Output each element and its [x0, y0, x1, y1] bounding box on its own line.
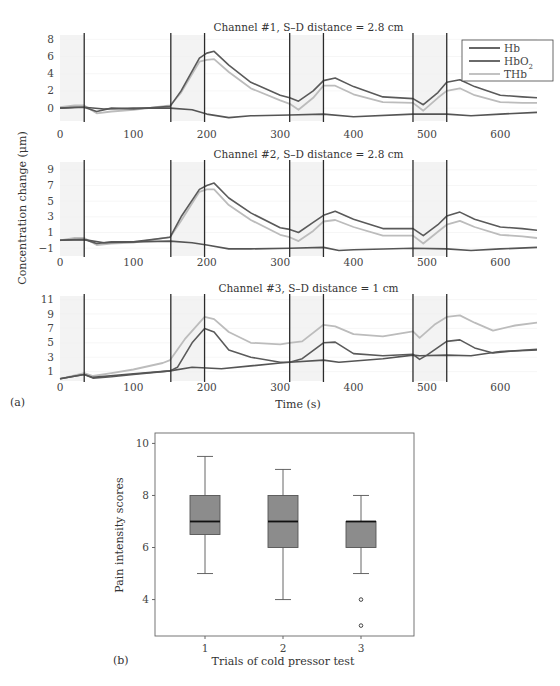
channel-title: Channel #2, S–D distance = 2.8 cm — [214, 148, 404, 160]
panel-b-label: (b) — [113, 654, 129, 667]
y-tick-label: 6 — [142, 541, 149, 553]
x-tick-label: 3 — [358, 642, 365, 654]
shaded-region — [413, 296, 447, 381]
y-axis-label: Pain intensity scores — [113, 477, 126, 593]
x-tick-label: 200 — [197, 128, 217, 140]
y-tick-label: 4 — [142, 593, 149, 605]
x-tick-label: 500 — [417, 381, 437, 393]
x-tick-label: 100 — [123, 128, 143, 140]
panel-a-label: (a) — [10, 396, 25, 409]
legend-entry: THb — [504, 68, 527, 80]
shaded-region — [290, 162, 324, 256]
figure: Channel #1, S–D distance = 2.8 cm0246801… — [0, 0, 560, 686]
legend-entry: Hb — [504, 42, 520, 54]
panel-b-box-plot: 46810123Pain intensity scoresTrials of c… — [113, 433, 414, 668]
y-tick-label: 8 — [47, 33, 54, 45]
shaded-region — [60, 296, 84, 381]
y-tick-label: 3 — [47, 210, 54, 222]
y-tick-label: 6 — [47, 50, 54, 62]
x-tick-label: 600 — [490, 128, 510, 140]
y-tick-label: 2 — [47, 84, 54, 96]
legend: HbHbO2THb — [462, 40, 553, 81]
x-tick-label: 0 — [57, 256, 64, 268]
shaded-region — [413, 162, 447, 256]
channel-1-plot: Channel #1, S–D distance = 2.8 cm0246801… — [47, 21, 553, 140]
x-tick-label: 300 — [270, 256, 290, 268]
y-tick-label: 9 — [47, 163, 54, 175]
x-tick-label: 100 — [123, 381, 143, 393]
outlier-point — [359, 598, 363, 602]
panel-a-line-charts: Channel #1, S–D distance = 2.8 cm0246801… — [16, 21, 553, 411]
y-tick-label: 7 — [47, 322, 54, 334]
y-tick-label: 10 — [136, 437, 149, 449]
x-tick-label: 0 — [57, 128, 64, 140]
outlier-point — [359, 624, 363, 628]
y-tick-label: 8 — [142, 489, 149, 501]
y-tick-label: 11 — [41, 293, 54, 305]
y-tick-label: 9 — [47, 308, 54, 320]
x-tick-label: 500 — [417, 128, 437, 140]
x-tick-label: 500 — [417, 256, 437, 268]
y-tick-label: 3 — [47, 351, 54, 363]
shaded-region — [60, 162, 84, 256]
y-tick-label: 5 — [47, 336, 54, 348]
x-axis-label: Time (s) — [275, 398, 321, 411]
x-tick-label: 400 — [344, 128, 364, 140]
y-tick-label: 4 — [47, 67, 54, 79]
channel-3-plot: Channel #3, S–D distance = 1 cm135791101… — [41, 282, 537, 393]
x-tick-label: 400 — [344, 256, 364, 268]
x-tick-label: 1 — [202, 642, 209, 654]
y-tick-label: 7 — [47, 179, 54, 191]
y-tick-label: 5 — [47, 195, 54, 207]
x-tick-label: 400 — [344, 381, 364, 393]
y-tick-label: 0 — [47, 102, 54, 114]
y-axis-label: Concentration change (μm) — [16, 131, 29, 284]
channel-2-plot: Channel #2, S–D distance = 2.8 cm−113579… — [39, 148, 537, 268]
x-tick-label: 100 — [123, 256, 143, 268]
x-tick-label: 2 — [280, 642, 287, 654]
x-tick-label: 200 — [197, 256, 217, 268]
y-tick-label: 1 — [47, 365, 54, 377]
x-tick-label: 600 — [490, 256, 510, 268]
y-tick-label: 1 — [47, 226, 54, 238]
x-axis-label: Trials of cold pressor test — [212, 655, 355, 668]
channel-title: Channel #1, S–D distance = 2.8 cm — [214, 21, 404, 33]
x-tick-label: 600 — [490, 381, 510, 393]
x-tick-label: 300 — [270, 128, 290, 140]
x-tick-label: 300 — [270, 381, 290, 393]
x-tick-label: 0 — [57, 381, 64, 393]
x-tick-label: 200 — [197, 381, 217, 393]
channel-title: Channel #3, S–D distance = 1 cm — [219, 282, 399, 294]
y-tick-label: −1 — [39, 242, 54, 254]
